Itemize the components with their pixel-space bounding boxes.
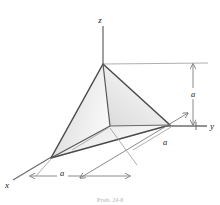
figure-caption: Prob. 24-8 [97, 197, 124, 203]
tetrahedron-solid [51, 64, 170, 158]
vertical-dim-label: a [191, 89, 195, 99]
y-axis-label: y [209, 121, 214, 131]
vertical-dim-extension-top [104, 63, 208, 64]
figure-container: z y x a a [0, 0, 220, 205]
z-axis-label: z [97, 15, 102, 25]
depth-dim-label: a [163, 137, 167, 147]
horizontal-dim-label: a [60, 168, 64, 178]
x-axis-label: x [4, 180, 9, 190]
tetrahedron-diagram: z y x a a [0, 0, 220, 205]
